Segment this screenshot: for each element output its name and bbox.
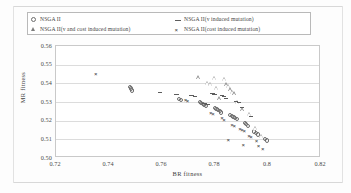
data-point <box>193 96 198 97</box>
x-tick-label: 0.78 <box>196 160 232 167</box>
data-point <box>259 134 263 138</box>
x-tick-label: 0.82 <box>302 160 338 167</box>
data-point: × <box>241 142 245 148</box>
data-point <box>265 138 269 142</box>
figure-container: NSGA II NSGA II(v and cost induced mutat… <box>0 0 351 193</box>
data-point <box>240 107 245 108</box>
data-point: × <box>186 98 190 104</box>
data-point <box>179 98 183 102</box>
x-axis-title: BR fitness <box>55 170 320 177</box>
data-point: × <box>232 123 236 129</box>
data-point: × <box>249 134 253 140</box>
data-point <box>217 96 221 100</box>
y-tick-label: 0.53 <box>24 98 52 105</box>
x-marker-icon: × <box>174 25 183 34</box>
data-points-layer: ××××××××××××××××××× <box>56 46 319 156</box>
data-point <box>224 98 229 99</box>
x-tick-label: 0.8 <box>249 160 285 167</box>
data-point <box>214 86 218 90</box>
figure-border-right <box>342 6 343 183</box>
data-point <box>196 75 200 79</box>
y-tick-label: 0.52 <box>24 116 52 123</box>
data-point: × <box>211 111 215 117</box>
y-axis-title: MR fitness <box>19 58 26 118</box>
legend-label: NSGA II(cost induced mutation) <box>184 25 260 34</box>
data-point <box>212 94 217 95</box>
y-tick-label: 0.56 <box>24 42 52 49</box>
x-tick-label: 0.76 <box>143 160 179 167</box>
chart-legend: NSGA II NSGA II(v and cost induced mutat… <box>27 12 311 35</box>
data-point <box>246 124 250 128</box>
data-point <box>222 77 226 81</box>
figure-border-top <box>13 6 343 7</box>
plot-area: ××××××××××××××××××× <box>55 45 320 157</box>
y-tick-label: 0.51 <box>24 135 52 142</box>
figure-border-left <box>13 6 14 183</box>
legend-item-cost-induced: × NSGA II(cost induced mutation) <box>174 24 260 35</box>
data-point <box>253 126 257 130</box>
data-point <box>237 102 242 103</box>
data-point <box>208 82 212 86</box>
data-point: × <box>222 117 226 123</box>
data-point <box>130 88 134 92</box>
data-point <box>235 117 239 121</box>
data-point <box>158 92 163 93</box>
x-tick-label: 0.72 <box>37 160 73 167</box>
data-point: × <box>242 128 246 134</box>
data-point: × <box>261 146 265 152</box>
data-point <box>232 91 236 95</box>
data-point <box>249 116 254 117</box>
figure-border-bottom <box>13 182 343 183</box>
data-point: × <box>257 143 261 149</box>
data-point <box>219 110 223 114</box>
legend-label: NSGA II(v and cost induced mutation) <box>40 25 130 34</box>
data-point: × <box>227 137 231 143</box>
data-point <box>205 104 210 105</box>
data-point: × <box>94 71 98 77</box>
dash-marker-icon <box>174 15 183 24</box>
data-point <box>212 76 216 80</box>
y-tick-label: 0.55 <box>24 60 52 67</box>
legend-label: NSGA II(v induced mutation) <box>184 15 254 24</box>
data-point <box>174 94 179 95</box>
x-tick-label: 0.74 <box>90 160 126 167</box>
y-tick-label: 0.54 <box>24 79 52 86</box>
